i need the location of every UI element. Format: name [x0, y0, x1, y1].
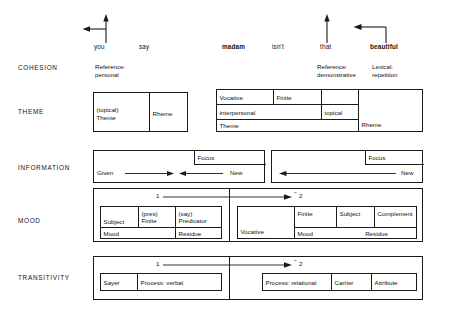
- row-label-information: INFORMATION: [18, 165, 70, 171]
- cohesion-note-line: repetition: [372, 71, 397, 79]
- clause-word-say: say: [139, 44, 149, 50]
- transitivity-clause-marker-2: 2: [299, 261, 302, 267]
- theme-cell-text: topical: [325, 109, 343, 116]
- theme-cell-rheme-right: Rheme: [359, 90, 422, 131]
- mood-cell-text: Complement: [378, 210, 413, 217]
- mood-cell-residue: Residue: [176, 228, 221, 238]
- row-label-transitivity: TRANSITIVITY: [18, 275, 70, 281]
- mood-cell-line: Predicator: [179, 217, 207, 225]
- mood-cell-text: Subject: [340, 210, 361, 217]
- clause-word-you: you: [94, 44, 105, 50]
- cohesion-note-line: Lexical:: [372, 63, 397, 71]
- mood-cell-text: Residue: [179, 230, 202, 237]
- information-new-text: New: [230, 169, 242, 176]
- mood-cell-line: Finite: [142, 217, 158, 225]
- information-focus-label: Focus: [369, 154, 386, 161]
- transitivity-cell-text: Process: verbal: [141, 279, 184, 286]
- cohesion-note-line: demonstrative: [317, 71, 356, 79]
- information-focus-box-left: Focus: [194, 150, 266, 165]
- cohesion-note-line: personal: [95, 71, 125, 79]
- theme-cell-rheme: Rheme: [150, 93, 187, 131]
- cohesion-note-line: Reference:: [317, 63, 356, 71]
- theme-cell-text: Vocative: [220, 94, 243, 101]
- transitivity-cell-process-relational: Process: relational: [263, 274, 331, 290]
- mood-right-box: Vocative Finite Subject Complement Mood …: [237, 206, 417, 239]
- theme-cell-interpersonal: interpersonal: [217, 105, 321, 119]
- theme-cell-line: (topical): [97, 106, 119, 114]
- mood-cell-complement: Complement: [375, 207, 416, 227]
- clause-word-row: you say madam isn't that beautiful: [0, 0, 455, 56]
- mood-clause-marker-2-superscript: '': [294, 191, 296, 197]
- mood-cell-text: Mood: [298, 230, 313, 237]
- mood-outer-box: 1 '' 2 Subject (pres) Finite (say): [93, 188, 423, 242]
- mood-cell-residue-right: Residue: [337, 228, 416, 238]
- theme-cell-line: Rheme: [153, 110, 173, 118]
- information-new-label-left: New: [230, 169, 260, 179]
- information-left-box: Focus Given New: [93, 150, 265, 183]
- mood-cell-mood-right: Mood: [295, 228, 336, 238]
- transitivity-clause-marker-2-superscript: '': [294, 259, 296, 265]
- mood-cell-finite: (pres) Finite: [139, 207, 175, 227]
- clause-word-madam: madam: [222, 44, 245, 50]
- cohesion-note-reference-demonstrative: Reference: demonstrative: [317, 63, 356, 80]
- theme-cell-text: Finite: [277, 94, 292, 101]
- transitivity-cell-carrier: Carrier: [332, 274, 371, 290]
- theme-cell-theme: Theme: [217, 120, 358, 132]
- theme-cell-text: interpersonal: [220, 109, 256, 116]
- theme-cell-text: Rheme: [362, 121, 382, 128]
- theme-cell-vocative: Vocative: [217, 90, 273, 104]
- transitivity-left-box: Sayer Process: verbal: [100, 273, 222, 291]
- transitivity-right-box: Process: relational Carrier Attribute: [262, 273, 417, 291]
- mood-cell-subject: Subject: [101, 207, 138, 227]
- figure-canvas: you say madam isn't that beautiful COHES…: [0, 0, 455, 311]
- mood-cell-text: Vocative: [241, 228, 264, 235]
- clause-word-that: that: [320, 44, 331, 50]
- mood-cell-text: Subject: [104, 218, 125, 225]
- transitivity-cell-attribute: Attribute: [372, 274, 416, 290]
- mood-clause-arrow: [163, 192, 293, 202]
- cohesion-note-lexical-repetition: Lexical: repetition: [372, 63, 397, 80]
- mood-cell-subject-right: Subject: [337, 207, 374, 227]
- transitivity-cell-text: Attribute: [375, 279, 398, 286]
- theme-cell-topical-theme: (topical) Theme: [94, 93, 149, 131]
- mood-left-box: Subject (pres) Finite (say) Predicator M…: [100, 206, 222, 239]
- information-new-text: New: [401, 169, 413, 176]
- transitivity-cell-text: Process: relational: [266, 279, 317, 286]
- mood-cell-mood: Mood: [101, 228, 175, 238]
- transitivity-cell-text: Carrier: [335, 279, 354, 286]
- theme-cell-finite: Finite: [274, 90, 321, 104]
- theme-right-box: Vocative Finite interpersonal topical Th…: [216, 89, 423, 132]
- mood-cell-text: Residue: [365, 230, 388, 237]
- mood-cell-line: (pres): [142, 210, 158, 218]
- transitivity-clause-arrow: [163, 260, 293, 270]
- information-focus-box-right: Focus: [365, 150, 424, 165]
- mood-cell-vocative: Vocative: [238, 207, 294, 238]
- transitivity-cell-process-verbal: Process: verbal: [138, 274, 221, 290]
- mood-cell-text: Finite: [298, 210, 313, 217]
- theme-cell-text: Theme: [220, 122, 239, 129]
- row-label-mood: MOOD: [18, 218, 41, 224]
- clause-word-isnt: isn't: [272, 44, 284, 50]
- theme-cell-blank-top: [322, 90, 358, 104]
- row-label-theme: THEME: [18, 109, 44, 115]
- mood-cell-finite-right: Finite: [295, 207, 336, 227]
- row-label-cohesion: COHESION: [18, 65, 58, 71]
- transitivity-outer-box: 1 '' 2 Sayer Process: verbal Process: re…: [93, 256, 423, 300]
- information-focus-label: Focus: [198, 154, 215, 161]
- transitivity-cell-text: Sayer: [104, 279, 120, 286]
- transitivity-clause-marker-1: 1: [156, 261, 159, 267]
- information-given-text: Given: [97, 169, 113, 176]
- information-arrow-right: [277, 168, 399, 179]
- mood-cell-predicator: (say) Predicator: [176, 207, 221, 227]
- information-arrows-left: [122, 168, 228, 179]
- mood-cell-text: Mood: [104, 230, 119, 237]
- mood-clause-marker-2: 2: [299, 193, 302, 199]
- theme-cell-line: Theme: [97, 114, 119, 122]
- information-new-label-right: New: [401, 169, 426, 179]
- information-right-box: Focus New: [271, 150, 423, 183]
- mood-clause-marker-1: 1: [156, 193, 159, 199]
- theme-left-box: (topical) Theme Rheme: [93, 92, 188, 132]
- clause-word-beautiful: beautiful: [370, 44, 398, 50]
- cohesion-note-line: Reference:: [95, 63, 125, 71]
- cohesion-note-reference-personal: Reference: personal: [95, 63, 125, 80]
